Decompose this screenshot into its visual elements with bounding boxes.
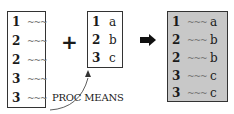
row-key: 3: [172, 84, 180, 102]
proc-means-label: PROC MEANS: [52, 92, 124, 103]
row-key: 2: [172, 31, 180, 49]
row-value: b: [210, 31, 218, 49]
connector-arrowhead-icon: [85, 70, 91, 77]
squiggle-data: ~~~: [187, 84, 207, 102]
row-value: b: [210, 49, 218, 67]
squiggle-data: ~~~: [187, 67, 207, 85]
right-arrow-icon: [140, 34, 156, 46]
row-value: c: [210, 67, 217, 85]
row-key: 3: [172, 67, 180, 85]
row-key: 1: [172, 13, 180, 31]
squiggle-data: ~~~: [187, 49, 207, 67]
squiggle-data: ~~~: [187, 31, 207, 49]
row-value: c: [210, 84, 217, 102]
row-key: 2: [172, 49, 180, 67]
row-value: a: [210, 13, 217, 31]
merged-result-table: 1 ~~~ a 2 ~~~ b 2 ~~~ b 3 ~~~ c 3 ~~~ c: [167, 11, 228, 102]
squiggle-data: ~~~: [187, 13, 207, 31]
